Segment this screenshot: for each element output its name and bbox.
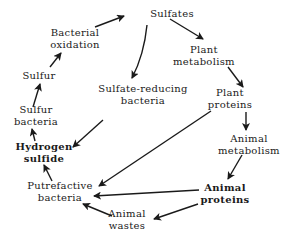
node-animal-metabolism: Animal metabolism <box>218 133 280 157</box>
arrow-bacterial-oxidation-to-sulfates <box>95 16 124 27</box>
node-label: proteins <box>200 194 249 206</box>
node-label: bacteria <box>14 116 58 128</box>
node-label: Sulfur <box>22 70 55 82</box>
node-label: proteins <box>208 99 252 111</box>
arrow-animal-proteins-to-putrefactive-bacteria <box>94 190 199 196</box>
node-sulfur: Sulfur <box>22 70 55 82</box>
node-putrefactive-bacteria: Putrefactive bacteria <box>27 180 93 204</box>
arrow-sulfates-to-plant-metabolism <box>170 19 203 39</box>
node-sulfur-bacteria: Sulfur bacteria <box>14 104 58 128</box>
node-label: Plant <box>173 44 235 56</box>
arrow-sulfate-reducing-bacteria-to-hydrogen-sulfide <box>73 120 103 147</box>
arrow-plant-proteins-to-putrefactive-bacteria <box>99 111 211 186</box>
arrow-sulfates-to-sulfate-reducing-bacteria <box>132 25 147 78</box>
node-label: bacteria <box>98 95 187 107</box>
node-label: Sulfur <box>14 104 58 116</box>
node-bacterial-oxidation: Bacterial oxidation <box>50 27 100 51</box>
sulfur-cycle-diagram: Sulfates Bacterial oxidation Plant metab… <box>0 0 283 237</box>
node-sulfate-reducing-bacteria: Sulfate-reducing bacteria <box>98 83 187 107</box>
arrow-sulfur-to-bacterial-oxidation <box>50 53 61 67</box>
node-sulfates: Sulfates <box>150 8 194 20</box>
node-hydrogen-sulfide: Hydrogen sulfide <box>15 141 72 165</box>
node-label: Plant <box>208 87 252 99</box>
node-label: Sulfate-reducing <box>98 83 187 95</box>
node-label: sulfide <box>15 153 72 165</box>
node-label: wastes <box>108 220 145 232</box>
node-label: Animal <box>200 182 249 194</box>
node-label: oxidation <box>50 39 100 51</box>
arrow-plant-metabolism-to-plant-proteins <box>228 67 243 87</box>
node-label: Hydrogen <box>15 141 72 153</box>
arrow-animal-metabolism-to-animal-proteins <box>228 155 242 179</box>
node-label: metabolism <box>173 56 235 68</box>
node-label: Animal <box>108 208 145 220</box>
arrow-putrefactive-bacteria-to-hydrogen-sulfide <box>44 165 52 181</box>
node-label: Bacterial <box>50 27 100 39</box>
node-label: Putrefactive <box>27 180 93 192</box>
node-plant-proteins: Plant proteins <box>208 87 252 111</box>
node-animal-wastes: Animal wastes <box>108 208 145 232</box>
node-label: Sulfates <box>150 8 194 20</box>
arrow-animal-proteins-to-animal-wastes <box>154 204 198 219</box>
node-label: bacteria <box>27 192 93 204</box>
node-label: Animal <box>218 133 280 145</box>
node-plant-metabolism: Plant metabolism <box>173 44 235 68</box>
node-label: metabolism <box>218 145 280 157</box>
arrow-hydrogen-sulfide-to-sulfur-bacteria <box>32 129 35 141</box>
node-animal-proteins: Animal proteins <box>200 182 249 206</box>
